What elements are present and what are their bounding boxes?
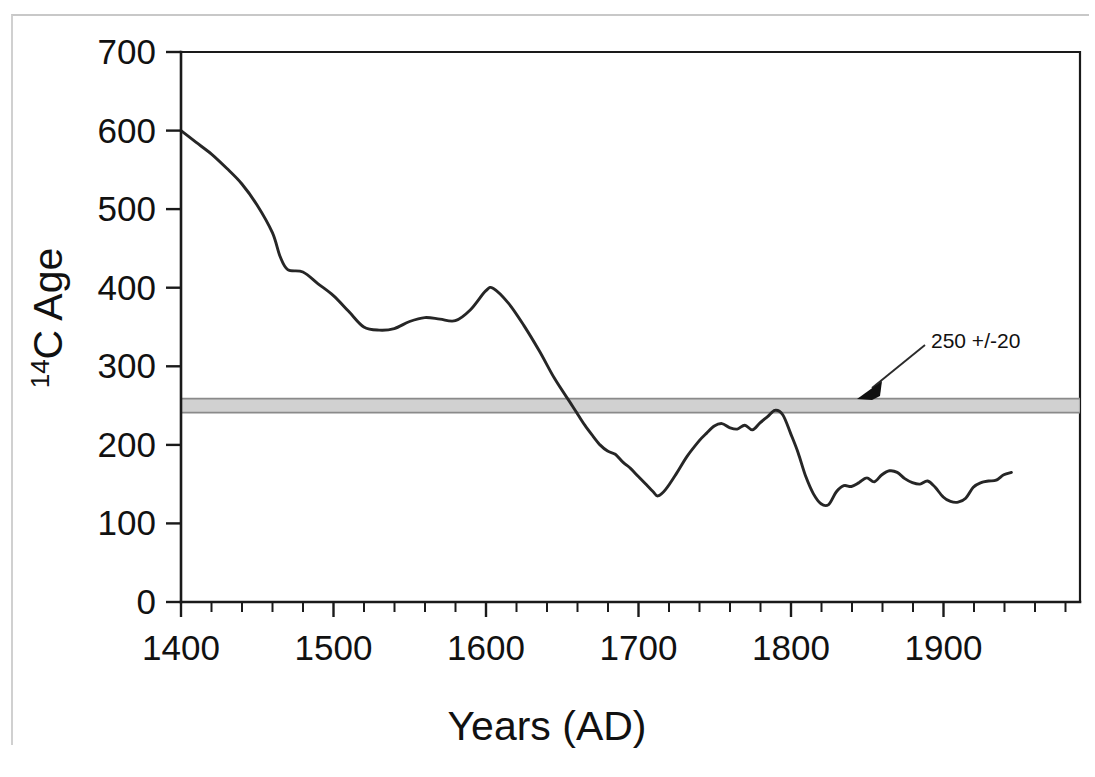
x-axis-major-ticks (181, 602, 944, 617)
plot-frame (181, 52, 1080, 602)
reference-band (181, 399, 1080, 413)
data-curve-14c-age (181, 131, 1011, 506)
y-tick-label-200: 200 (98, 425, 156, 464)
annotation-label-250: 250 +/-20 (931, 329, 1020, 352)
x-tick-label-1700: 1700 (600, 628, 678, 667)
y-tick-label-0: 0 (137, 582, 156, 621)
y-axis-title: 14C Age (25, 248, 71, 389)
band-annotation: 250 +/-20 (857, 329, 1020, 400)
x-tick-label-1900: 1900 (905, 628, 983, 667)
y-tick-label-400: 400 (98, 268, 156, 307)
x-tick-label-1800: 1800 (752, 628, 830, 667)
annotation-arrow-head (857, 381, 882, 400)
x-axis-tick-labels: 1400 1500 1600 1700 1800 1900 (142, 628, 982, 667)
x-axis-title: Years (AD) (448, 703, 647, 749)
y-tick-label-600: 600 (98, 111, 156, 150)
y-tick-label-700: 700 (98, 32, 156, 71)
x-tick-label-1500: 1500 (295, 628, 373, 667)
y-axis-title-main: C Age (25, 248, 71, 360)
annotation-arrow-line (872, 345, 925, 388)
chart-svg: 0 100 200 300 400 500 600 700 1400 1500 … (0, 0, 1095, 777)
figure-container: 0 100 200 300 400 500 600 700 1400 1500 … (0, 0, 1095, 777)
x-tick-label-1600: 1600 (447, 628, 525, 667)
y-axis-title-superscript: 14 (25, 359, 55, 388)
y-axis-title-group: 14C Age (25, 248, 71, 389)
y-tick-label-100: 100 (98, 503, 156, 542)
y-axis-tick-labels: 0 100 200 300 400 500 600 700 (98, 32, 156, 621)
y-tick-label-300: 300 (98, 346, 156, 385)
y-tick-label-500: 500 (98, 189, 156, 228)
x-tick-label-1400: 1400 (142, 628, 220, 667)
y-axis-ticks (166, 52, 181, 602)
